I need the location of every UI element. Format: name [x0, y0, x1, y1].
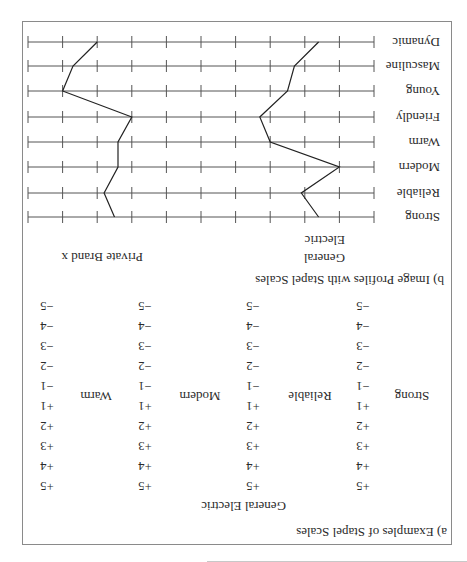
stapel-scale-value: −4	[356, 319, 369, 333]
stapel-scale-value: +2	[356, 419, 369, 433]
stapel-scale-value: −1	[40, 379, 53, 393]
stapel-scale-value: +4	[356, 459, 369, 473]
stapel-scale-value: −3	[40, 339, 53, 353]
stapel-scale-value: +3	[246, 439, 259, 453]
stapel-scale-value: −5	[356, 299, 369, 313]
stapel-scale-value: −3	[138, 339, 151, 353]
stapel-scale-value: +3	[138, 439, 151, 453]
profile-row-label: Modern	[399, 160, 440, 174]
stapel-scale-value: −2	[40, 359, 53, 373]
stapel-scale-value: +4	[40, 459, 53, 473]
stapel-scale-value: −1	[246, 379, 259, 393]
stapel-scale-value: +5	[138, 479, 151, 493]
stapel-item-label: Reliable	[288, 389, 331, 403]
profile-row-label: Masculine	[386, 59, 440, 73]
stapel-scale-value: +4	[138, 459, 151, 473]
stapel-scale-value: −4	[138, 319, 151, 333]
stapel-scale-value: +2	[40, 419, 53, 433]
stapel-scale-value: −5	[138, 299, 151, 313]
stapel-scale-value: −2	[246, 359, 259, 373]
series-general-electric	[260, 42, 340, 217]
stapel-scale-value: −1	[138, 379, 151, 393]
stapel-scale-value: −5	[246, 299, 259, 313]
stapel-scale-value: −4	[246, 319, 259, 333]
stapel-item-label: Warm	[80, 389, 111, 403]
page: a) Examples of Stapel Scales General Ele…	[0, 0, 467, 562]
stapel-scale-value: +2	[138, 419, 151, 433]
stapel-scale-value: −2	[138, 359, 151, 373]
stapel-item-label: Strong	[395, 389, 430, 403]
stapel-item-label: Modern	[179, 389, 220, 403]
stapel-scale-value: +1	[40, 399, 53, 413]
stapel-scale-value: +3	[40, 439, 53, 453]
stapel-scale-value: +4	[246, 459, 259, 473]
stapel-scale-value: +3	[356, 439, 369, 453]
profile-row-label: Young	[406, 84, 440, 98]
profile-row-label: Warm	[409, 135, 440, 149]
stapel-scale-value: +1	[246, 399, 259, 413]
profile-row-label: Friendly	[396, 110, 440, 124]
stapel-scale-value: −2	[356, 359, 369, 373]
stapel-scale-value: −5	[40, 299, 53, 313]
stapel-scale-value: −3	[356, 339, 369, 353]
stapel-scale-value: +5	[246, 479, 259, 493]
stapel-scale-value: −3	[246, 339, 259, 353]
profile-row-label: Reliable	[397, 186, 440, 200]
profile-row-label: Dynamic	[392, 35, 440, 49]
image-profile-chart	[0, 0, 467, 562]
profile-row-label: Strong	[405, 210, 440, 224]
stapel-scale-value: −4	[40, 319, 53, 333]
stapel-scale-value: +2	[246, 419, 259, 433]
stapel-scale-value: +1	[356, 399, 369, 413]
stapel-scale-value: +5	[40, 479, 53, 493]
stapel-scale-value: −1	[356, 379, 369, 393]
stapel-scale-value: +5	[356, 479, 369, 493]
stapel-scale-value: +1	[138, 399, 151, 413]
